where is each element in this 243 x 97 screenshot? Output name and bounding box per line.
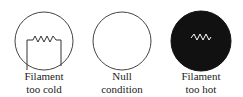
null-view-circle	[93, 12, 151, 70]
label-line-1: Null	[82, 70, 162, 83]
label-null-condition: Null condition	[82, 70, 162, 96]
label-line-2: condition	[82, 83, 162, 96]
label-line-2: too hot	[161, 83, 241, 96]
hot-view-circle	[171, 11, 231, 71]
panel-filament-too-hot	[171, 11, 231, 71]
label-line-1: Filament	[161, 70, 241, 83]
label-line-2: too cold	[4, 83, 84, 96]
label-line-1: Filament	[4, 70, 84, 83]
panel-null-condition	[93, 12, 151, 70]
panel-filament-too-cold	[15, 12, 73, 70]
label-filament-too-cold: Filament too cold	[4, 70, 84, 96]
label-filament-too-hot: Filament too hot	[161, 70, 241, 96]
